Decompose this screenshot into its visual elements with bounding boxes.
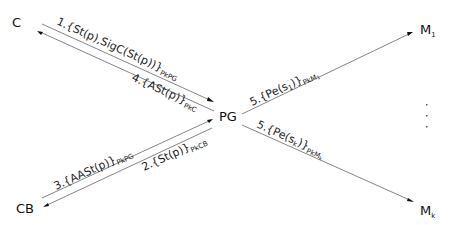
node-m1: M1 bbox=[420, 22, 436, 39]
edge-msg1 bbox=[42, 24, 212, 101]
payment-protocol-diagram: C PG CB M1 Mk 1.{St(p),SigC(St(p))}PkPG … bbox=[0, 0, 451, 225]
node-c: C bbox=[12, 15, 21, 30]
node-pg: PG bbox=[219, 109, 237, 124]
label-msg5a: 5.{Pe(s1)}PkM1 bbox=[248, 66, 321, 111]
arrowhead-icon bbox=[207, 119, 213, 123]
node-mk: Mk bbox=[420, 203, 436, 220]
arrowhead-icon bbox=[407, 32, 413, 36]
label-msg5b: 5.{Pe(sk)}PkMk bbox=[254, 118, 327, 161]
label-msg1: 1.{St(p),SigC(St(p))}PkPG bbox=[54, 15, 181, 84]
arrowhead-icon bbox=[43, 203, 49, 207]
edge-msg5b bbox=[242, 125, 412, 201]
edge-msg4 bbox=[40, 32, 214, 111]
label-msg2: 2.{St(p)}PkCB bbox=[140, 133, 209, 175]
vertical-ellipsis-icon bbox=[426, 104, 428, 128]
arrowhead-icon bbox=[37, 31, 43, 35]
arrowhead-icon bbox=[407, 198, 414, 202]
node-cb: CB bbox=[16, 201, 34, 216]
edge-msg2 bbox=[45, 128, 212, 206]
arrowhead-icon bbox=[207, 97, 214, 102]
